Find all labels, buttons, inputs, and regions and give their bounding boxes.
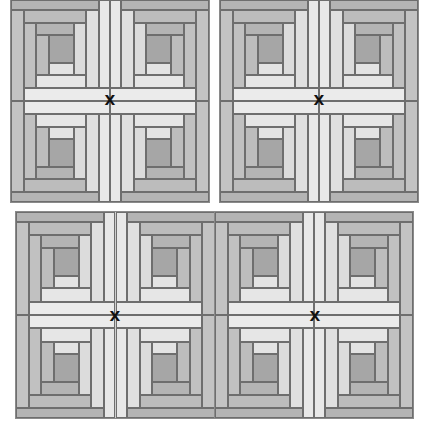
log-ring1-right [110, 114, 121, 202]
log-ring3-left [171, 127, 184, 167]
log-ring2-bottom [36, 75, 86, 88]
log-ring3-top [146, 167, 184, 179]
log-ring2-left [228, 328, 240, 394]
block-top-right [314, 212, 413, 315]
log-ring3-right [343, 23, 355, 75]
log-ring2-top [24, 179, 86, 192]
log-ring1-right [116, 212, 127, 302]
log-ring2-right [86, 114, 99, 192]
log-ring1-left [400, 315, 413, 408]
log-ring1-right [99, 0, 110, 88]
log-ring3-bottom [258, 63, 283, 75]
log-ring1-top [215, 408, 303, 418]
log-ring2-right [127, 328, 140, 408]
log-ring3-top [36, 167, 74, 179]
log-ring1-bottom [314, 315, 400, 328]
log-ring2-left [393, 23, 405, 88]
log-ring2-right [290, 222, 303, 302]
log-ring1-left [16, 315, 29, 408]
log-ring2-bottom [343, 75, 393, 88]
log-ring2-right [330, 114, 343, 192]
log-ring1-bottom [110, 88, 196, 101]
block-bottom-left [215, 315, 314, 418]
block-top-left [215, 212, 314, 315]
log-ring3-top [350, 235, 388, 247]
log-center-square [355, 35, 380, 63]
log-ring1-right [319, 0, 330, 88]
log-ring3-bottom [54, 342, 79, 354]
log-ring3-bottom [146, 63, 171, 75]
log-ring3-right [134, 127, 146, 179]
log-ring2-left [233, 114, 245, 179]
block-bottom-left [220, 101, 319, 202]
log-ring3-top [152, 235, 190, 247]
log-ring1-left [215, 315, 228, 408]
log-ring3-right [79, 235, 91, 288]
log-ring2-bottom [338, 288, 388, 301]
block-top-left [11, 0, 110, 101]
block-top-left [16, 212, 116, 315]
log-ring2-right [121, 10, 134, 88]
block-top-left [220, 0, 319, 101]
log-ring2-bottom [134, 75, 184, 88]
log-center-square [253, 248, 278, 277]
log-ring2-right [295, 114, 308, 192]
log-ring1-right [104, 212, 115, 302]
log-ring2-right [91, 328, 104, 408]
block-bottom-right [319, 101, 418, 202]
log-ring1-left [11, 101, 24, 192]
log-ring2-left [233, 23, 245, 88]
log-ring3-right [283, 127, 295, 179]
log-ring2-right [325, 328, 338, 408]
log-ring1-top [16, 408, 104, 418]
log-ring2-bottom [240, 328, 290, 341]
log-ring2-top [343, 179, 405, 192]
log-ring1-bottom [319, 101, 405, 114]
log-ring2-bottom [140, 288, 190, 301]
log-ring2-left [24, 23, 36, 88]
log-ring3-left [375, 248, 388, 289]
log-ring1-bottom [116, 302, 202, 315]
log-center-square [258, 35, 283, 63]
log-ring2-top [338, 395, 400, 408]
log-ring2-bottom [41, 328, 91, 341]
log-ring1-right [99, 114, 110, 202]
log-ring3-top [245, 167, 283, 179]
log-ring3-left [245, 127, 258, 167]
log-ring1-top [121, 192, 209, 202]
log-ring3-bottom [54, 276, 79, 288]
log-ring3-left [240, 342, 253, 383]
log-center-square [49, 139, 74, 167]
log-ring1-left [196, 101, 209, 192]
block-top-right [116, 212, 216, 315]
log-ring1-left [215, 222, 228, 315]
log-ring3-top [355, 23, 393, 35]
log-ring3-bottom [146, 127, 171, 139]
log-center-square [54, 354, 79, 383]
log-ring1-right [303, 212, 314, 302]
log-ring2-left [184, 114, 196, 179]
log-ring1-bottom [314, 302, 400, 315]
log-ring3-left [375, 342, 388, 383]
log-ring3-top [41, 382, 79, 394]
log-ring1-top [325, 212, 413, 222]
log-ring2-bottom [245, 114, 295, 127]
log-center-square [146, 139, 171, 167]
log-ring1-top [325, 408, 413, 418]
log-ring2-left [184, 23, 196, 88]
log-ring3-left [177, 248, 190, 289]
log-ring1-bottom [110, 101, 196, 114]
log-ring2-bottom [41, 288, 91, 301]
log-ring2-left [393, 114, 405, 179]
log-ring3-left [36, 127, 49, 167]
log-ring2-right [86, 10, 99, 88]
log-ring1-top [127, 408, 215, 418]
log-ring2-top [140, 222, 202, 235]
log-ring1-right [303, 328, 314, 418]
log-ring3-right [343, 127, 355, 179]
log-center-square [152, 248, 177, 277]
log-ring1-right [116, 328, 127, 418]
log-ring1-top [11, 0, 99, 10]
block-bottom-left [11, 101, 110, 202]
log-ring3-left [171, 35, 184, 75]
